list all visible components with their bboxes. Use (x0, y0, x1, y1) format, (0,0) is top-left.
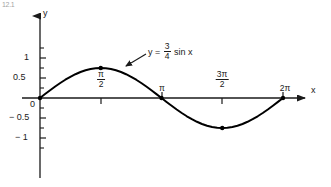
equation-annotation: y = 3 4 sin x (148, 42, 193, 60)
y-tick-label-neg0.5: − 0.5 (9, 113, 29, 122)
equation-equals: = (155, 47, 160, 57)
fraction-3pi-over-2: 3π 2 (216, 70, 229, 88)
data-point-marker (281, 96, 285, 100)
x-tick-label-pi-over-2: π 2 (97, 70, 105, 88)
fraction-pi-over-2: π 2 (97, 70, 105, 88)
y-tick-label-neg1: − 1 (15, 133, 28, 142)
y-tick-label-1: 1 (24, 53, 29, 62)
x-tick-label-3pi-over-2: 3π 2 (216, 70, 229, 88)
figure-canvas: 12.1 (0, 0, 331, 187)
equation-lhs: y (148, 47, 153, 57)
x-axis-label: x (311, 86, 316, 95)
x-tick-label-2pi: 2π (280, 83, 291, 93)
data-point-marker (220, 126, 224, 130)
x-tick-label-pi: π (159, 83, 165, 93)
y-axis-label: y (43, 9, 48, 18)
data-point-marker (38, 96, 42, 100)
y-tick-label-0: 0 (30, 100, 35, 109)
sine-curve-plot (0, 0, 331, 187)
y-tick-label-0.5: 0.5 (13, 73, 26, 82)
data-point-marker (159, 96, 163, 100)
equation-rhs: sin x (174, 47, 193, 57)
fraction-three-fourths: 3 4 (164, 42, 171, 60)
equation-leader-line (126, 54, 146, 66)
